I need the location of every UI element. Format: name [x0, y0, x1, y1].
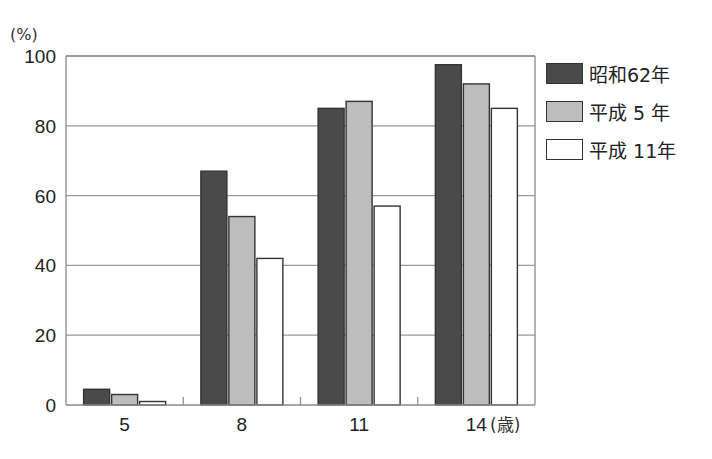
- bar: [112, 395, 138, 405]
- bar: [435, 65, 461, 405]
- bar: [346, 101, 372, 405]
- legend-label: 平成 11年: [589, 136, 676, 163]
- bar: [84, 389, 110, 405]
- legend-swatch-dark: [546, 63, 583, 84]
- y-tick-label: 20: [35, 325, 56, 346]
- x-tick-label: 8: [237, 414, 248, 435]
- bar: [491, 108, 517, 405]
- bar: [201, 171, 227, 405]
- bar: [318, 108, 344, 405]
- x-tick-label: 14: [466, 414, 488, 435]
- y-tick-label: 0: [45, 395, 56, 416]
- y-tick-label: 100: [24, 46, 56, 67]
- y-tick-label: 40: [35, 255, 56, 276]
- bar: [257, 258, 283, 405]
- legend-swatch-white: [546, 139, 583, 160]
- legend-label: 平成 5 年: [589, 98, 670, 125]
- legend-item-heisei5: 平成 5 年: [546, 92, 676, 130]
- bar: [463, 84, 489, 405]
- legend-swatch-light: [546, 101, 583, 122]
- legend: 昭和62年 平成 5 年 平成 11年: [546, 54, 676, 168]
- legend-item-heisei11: 平成 11年: [546, 130, 676, 168]
- x-axis-unit: (歳): [490, 415, 520, 435]
- bar: [229, 217, 255, 405]
- bars: [84, 65, 518, 405]
- y-tick-label: 80: [35, 116, 56, 137]
- y-axis-unit: (%): [10, 25, 38, 44]
- y-tick-label: 60: [35, 186, 56, 207]
- x-tick-label: 5: [119, 414, 130, 435]
- x-tick-label: 11: [349, 414, 369, 435]
- bar: [374, 206, 400, 405]
- legend-label: 昭和62年: [589, 60, 670, 87]
- legend-item-showa62: 昭和62年: [546, 54, 676, 92]
